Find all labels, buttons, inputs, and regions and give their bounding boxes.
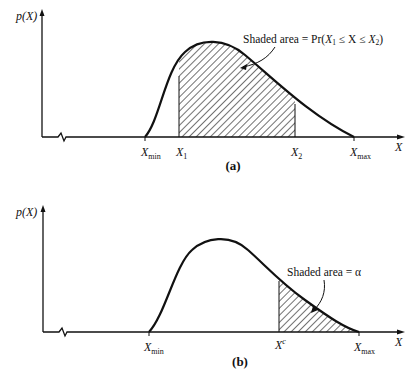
x-axis-label-b: X: [394, 335, 403, 349]
annotation-a: Shaded area = Pr(X1 ≤ X ≤ X2): [243, 33, 383, 47]
tick-label-x2: X2: [290, 145, 302, 161]
panel-a: p(X) X Xmin X1 X2 Xmax Shaded area = Pr(…: [15, 9, 405, 173]
y-axis-label-b: p(X): [15, 205, 37, 219]
tick-label-xc: Xc: [274, 337, 286, 352]
probability-density-diagram: p(X) X Xmin X1 X2 Xmax Shaded area = Pr(…: [0, 0, 419, 379]
x-axis-arrow-icon: [397, 330, 405, 335]
shaded-area-a: [145, 42, 354, 137]
shaded-area-b: [149, 239, 359, 332]
x-axis-arrow-icon: [397, 135, 405, 140]
tick-label-xmin-b: Xmin: [143, 340, 164, 356]
panel-b: p(X) X Xmin Xc Xmax Shaded area = α (b): [15, 205, 405, 369]
annotation-b: Shaded area = α: [287, 266, 361, 278]
annotation-leader-b: [314, 280, 325, 310]
x-axis-label-a: X: [394, 140, 403, 154]
caption-b: (b): [232, 354, 248, 369]
tick-label-xmax-b: Xmax: [353, 340, 375, 356]
tick-label-xmin-a: Xmin: [140, 145, 161, 161]
tick-label-xmax-a: Xmax: [349, 145, 371, 161]
y-axis-arrow-icon: [40, 9, 45, 16]
tick-label-x1: X1: [175, 145, 187, 161]
caption-a: (a): [225, 158, 240, 173]
y-axis-arrow-icon: [41, 205, 46, 212]
y-axis-label-a: p(X): [15, 9, 37, 23]
